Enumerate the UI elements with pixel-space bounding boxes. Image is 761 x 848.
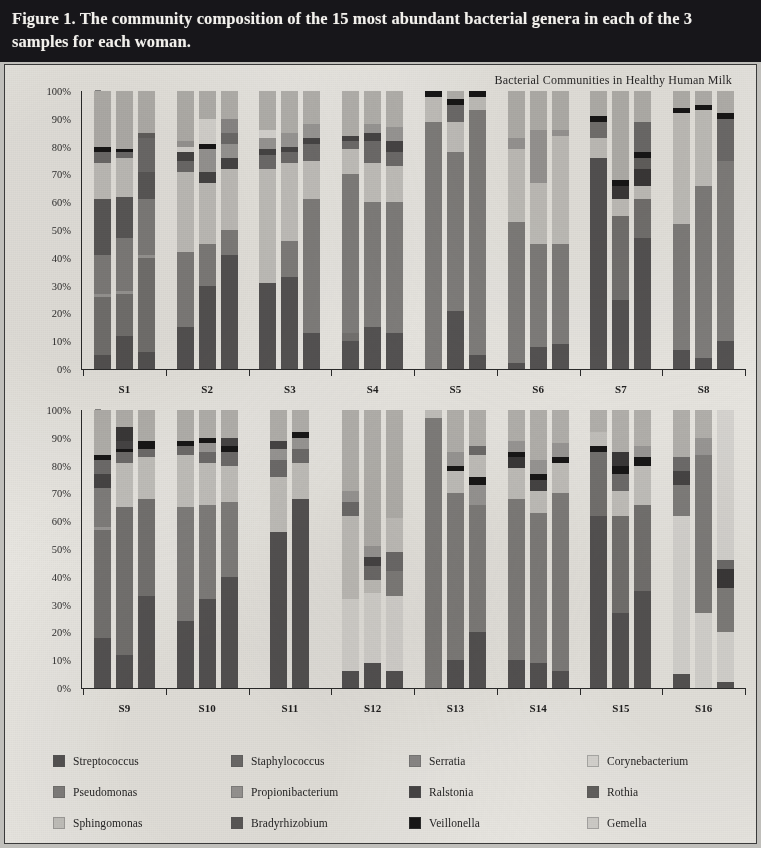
bar-segment: [364, 566, 381, 580]
bar-segment: [447, 105, 464, 122]
stacked-bar[interactable]: [138, 91, 155, 369]
bar-segment: [634, 186, 651, 200]
stacked-bar[interactable]: [342, 91, 359, 369]
bar-segment: [94, 488, 111, 527]
stacked-bar[interactable]: [673, 410, 690, 688]
bar-segment: [386, 166, 403, 202]
x-axis-tick-mark: [745, 688, 746, 695]
stacked-bar[interactable]: [364, 91, 381, 369]
bar-segment: [303, 199, 320, 332]
bar-segment: [634, 410, 651, 446]
legend-item-ralstonia[interactable]: Ralstonia: [409, 786, 587, 798]
stacked-bar[interactable]: [612, 91, 629, 369]
legend-item-veillonella[interactable]: Veillonella: [409, 817, 587, 829]
chart-legend: StreptococcusStaphylococcusSerratiaCoryn…: [53, 755, 725, 844]
legend-item-staphylococcus[interactable]: Staphylococcus: [231, 755, 409, 767]
stacked-bar[interactable]: [425, 91, 442, 369]
y-axis-tick-label: 40%: [52, 571, 71, 582]
stacked-bar[interactable]: [221, 91, 238, 369]
stacked-bar[interactable]: [447, 91, 464, 369]
bar-segment: [717, 588, 734, 632]
stacked-bar[interactable]: [94, 91, 111, 369]
bar-segment: [386, 127, 403, 141]
stacked-bar[interactable]: [508, 91, 525, 369]
stacked-bar[interactable]: [673, 91, 690, 369]
x-axis-group-label-s15: S15: [612, 702, 629, 714]
stacked-bar[interactable]: [469, 410, 486, 688]
stacked-bar[interactable]: [116, 410, 133, 688]
bar-segment: [138, 449, 155, 457]
stacked-bar[interactable]: [447, 410, 464, 688]
legend-item-serratia[interactable]: Serratia: [409, 755, 587, 767]
stacked-bar[interactable]: [552, 410, 569, 688]
bar-segment: [425, 97, 442, 122]
legend-item-propionibacterium[interactable]: Propionibacterium: [231, 786, 409, 798]
stacked-bar[interactable]: [292, 410, 309, 688]
stacked-bar[interactable]: [634, 91, 651, 369]
legend-item-gemella[interactable]: Gemella: [587, 817, 757, 829]
stacked-bar[interactable]: [695, 410, 712, 688]
bar-segment: [469, 485, 486, 504]
bar-segment: [303, 333, 320, 369]
y-axis-tick-label: 70%: [52, 488, 71, 499]
stacked-bar[interactable]: [94, 410, 111, 688]
legend-item-bradyrhizobium[interactable]: Bradyrhizobium: [231, 817, 409, 829]
stacked-bar[interactable]: [469, 91, 486, 369]
stacked-bar[interactable]: [303, 91, 320, 369]
legend-item-sphingomonas[interactable]: Sphingomonas: [53, 817, 231, 829]
stacked-bar[interactable]: [270, 410, 287, 688]
stacked-bar[interactable]: [259, 91, 276, 369]
stacked-bar[interactable]: [199, 410, 216, 688]
legend-item-label: Propionibacterium: [251, 786, 338, 798]
legend-item-rothia[interactable]: Rothia: [587, 786, 757, 798]
stacked-bar[interactable]: [530, 91, 547, 369]
bar-segment: [386, 91, 403, 127]
y-axis-tick-label: 20%: [52, 627, 71, 638]
stacked-bar[interactable]: [717, 91, 734, 369]
bar-group-s3: [249, 91, 332, 369]
bar-segment: [590, 516, 607, 688]
x-axis-tick-mark: [83, 369, 84, 376]
stacked-bar[interactable]: [281, 91, 298, 369]
bar-segment: [673, 674, 690, 688]
stacked-bar[interactable]: [530, 410, 547, 688]
stacked-bar[interactable]: [177, 91, 194, 369]
legend-item-streptococcus[interactable]: Streptococcus: [53, 755, 231, 767]
bar-segment: [612, 199, 629, 216]
stacked-bar[interactable]: [634, 410, 651, 688]
bar-segment: [590, 91, 607, 116]
x-axis-line: [81, 688, 745, 689]
x-axis-tick-mark: [580, 369, 581, 376]
y-axis-tick-label: 50%: [52, 544, 71, 555]
stacked-bar[interactable]: [552, 91, 569, 369]
bar-segment: [673, 410, 690, 457]
stacked-bar[interactable]: [199, 91, 216, 369]
stacked-bar[interactable]: [612, 410, 629, 688]
stacked-bar[interactable]: [138, 410, 155, 688]
legend-item-pseudomonas[interactable]: Pseudomonas: [53, 786, 231, 798]
y-axis-tick-label: 30%: [52, 599, 71, 610]
stacked-bar[interactable]: [590, 410, 607, 688]
bar-segment: [270, 460, 287, 477]
stacked-bar[interactable]: [590, 91, 607, 369]
stacked-bar[interactable]: [342, 410, 359, 688]
stacked-bar[interactable]: [364, 410, 381, 688]
bar-segment: [508, 660, 525, 688]
bar-group-s8: [662, 91, 745, 369]
legend-item-corynebacterium[interactable]: Corynebacterium: [587, 755, 757, 767]
bar-segment: [552, 410, 569, 443]
stacked-bar[interactable]: [508, 410, 525, 688]
stacked-bar[interactable]: [717, 410, 734, 688]
stacked-bar[interactable]: [221, 410, 238, 688]
bar-segment: [199, 452, 216, 463]
x-axis-line: [81, 369, 745, 370]
stacked-bar[interactable]: [177, 410, 194, 688]
stacked-bar[interactable]: [116, 91, 133, 369]
stacked-bar[interactable]: [386, 91, 403, 369]
stacked-bar[interactable]: [695, 91, 712, 369]
bar-segment: [116, 197, 133, 239]
x-axis-group-label-s13: S13: [447, 702, 464, 714]
stacked-bar[interactable]: [386, 410, 403, 688]
stacked-bar[interactable]: [425, 410, 442, 688]
bar-segment: [695, 110, 712, 185]
